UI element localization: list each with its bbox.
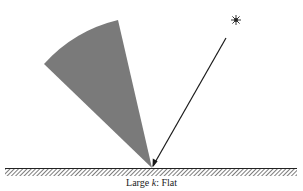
star-icon [231, 15, 241, 25]
incident-ray-arrow [153, 38, 227, 168]
reflection-lobe [44, 20, 152, 168]
reflection-diagram [0, 0, 303, 191]
hatched-surface [5, 169, 297, 177]
figure-caption: Large k: Flat [0, 177, 303, 189]
